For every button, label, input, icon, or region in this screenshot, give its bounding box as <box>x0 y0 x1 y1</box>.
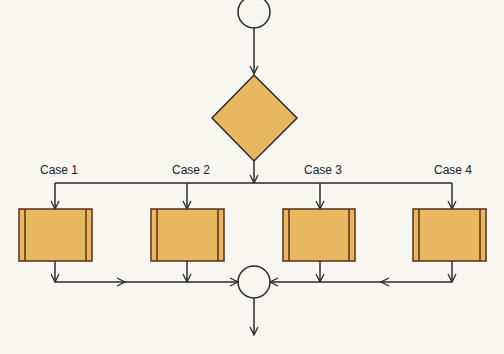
flowchart-graphics <box>0 0 504 354</box>
case4-process <box>413 209 486 261</box>
case3-label: Case 3 <box>304 163 342 177</box>
case2-process <box>151 209 224 261</box>
case4-label: Case 4 <box>434 163 472 177</box>
decision-node <box>212 75 297 161</box>
case2-label: Case 2 <box>172 163 210 177</box>
start-node <box>238 0 270 28</box>
case1-label: Case 1 <box>40 163 78 177</box>
flowchart-canvas: Case 1 Case 2 Case 3 Case 4 <box>0 0 504 354</box>
case3-process <box>283 209 355 261</box>
case1-process <box>19 209 92 261</box>
merge-node <box>238 266 270 298</box>
